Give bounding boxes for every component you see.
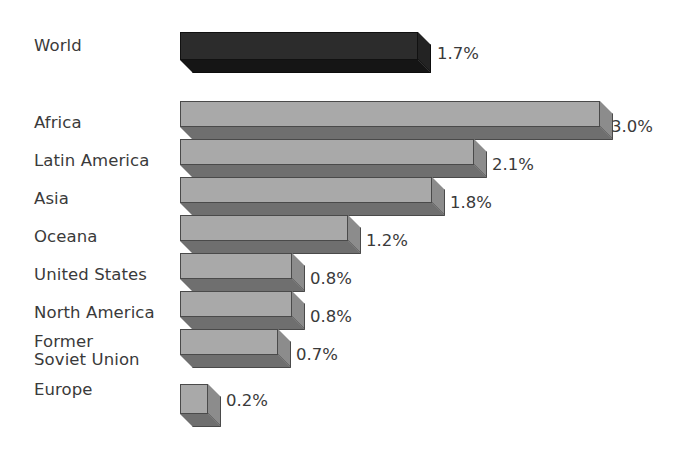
category-label-africa: Africa [34, 114, 82, 132]
value-label-united-states: 0.8% [310, 270, 352, 288]
bar-oceana-front-face [180, 215, 348, 241]
bar-africa-front-face [180, 101, 600, 127]
bar-asia-front-face [180, 177, 432, 203]
bar-latin-america-front-face [180, 139, 474, 165]
category-label-world: World [34, 37, 82, 55]
bar-north-america [180, 291, 292, 317]
category-label-europe: Europe [34, 381, 93, 399]
value-label-world: 1.7% [437, 45, 479, 63]
bar-africa [180, 101, 600, 127]
value-label-africa: 3.0% [611, 118, 653, 136]
value-label-oceana: 1.2% [366, 232, 408, 250]
bar-europe-front-face [180, 384, 208, 414]
category-label-oceana: Oceana [34, 228, 98, 246]
category-label-former-soviet-union: Former Soviet Union [34, 333, 140, 369]
bar-world [180, 32, 418, 60]
value-label-former-soviet-union: 0.7% [296, 346, 338, 364]
bar-chart: World Africa Latin America Asia Oceana U… [0, 0, 692, 453]
bar-former-soviet-union-bottom-face [180, 355, 291, 368]
bar-asia [180, 177, 432, 203]
bar-united-states [180, 253, 292, 279]
category-label-north-america: North America [34, 304, 155, 322]
value-label-asia: 1.8% [450, 194, 492, 212]
value-label-europe: 0.2% [226, 392, 268, 410]
bar-former-soviet-union-front-face [180, 329, 278, 355]
bar-world-bottom-face [180, 60, 431, 73]
value-label-north-america: 0.8% [310, 308, 352, 326]
bar-world-front-face [180, 32, 418, 60]
bar-united-states-front-face [180, 253, 292, 279]
category-label-latin-america: Latin America [34, 152, 149, 170]
bar-europe [180, 384, 208, 414]
value-label-latin-america: 2.1% [492, 156, 534, 174]
bar-north-america-front-face [180, 291, 292, 317]
category-label-asia: Asia [34, 190, 69, 208]
bar-oceana [180, 215, 348, 241]
category-label-united-states: United States [34, 266, 147, 284]
bar-former-soviet-union [180, 329, 278, 355]
bar-latin-america [180, 139, 474, 165]
